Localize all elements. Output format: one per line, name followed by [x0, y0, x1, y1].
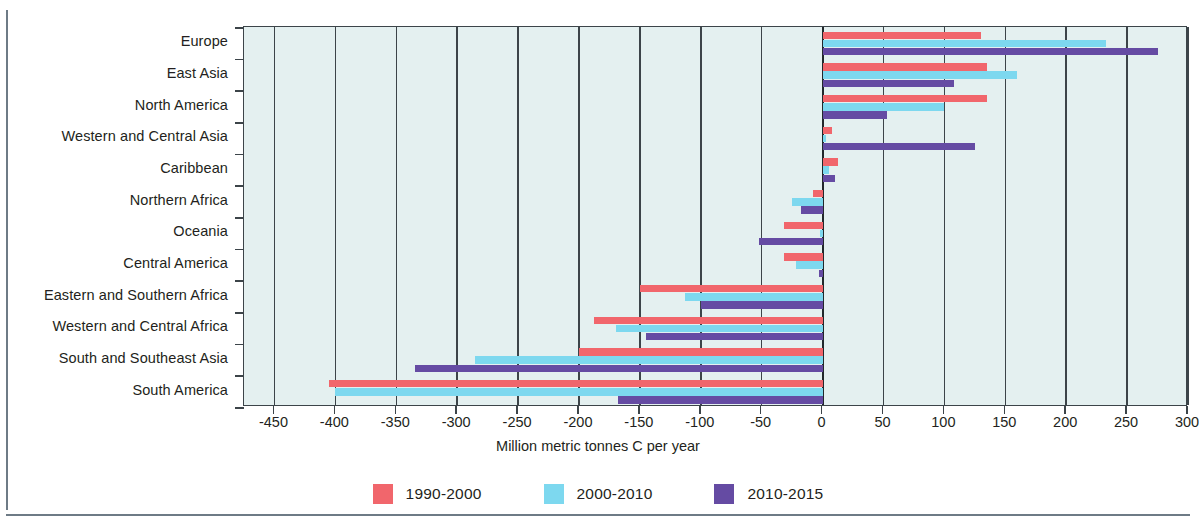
bar-group: [244, 280, 1186, 312]
bar: [823, 95, 987, 103]
bar: [823, 166, 829, 174]
bar: [823, 127, 833, 135]
y-axis-label-north-america: North America: [135, 98, 228, 113]
x-axis-tick-label: -50: [750, 414, 771, 430]
x-axis-tick-label: 100: [931, 414, 955, 430]
x-axis-tick-label: 50: [874, 414, 890, 430]
y-axis-tick: [235, 344, 244, 346]
y-axis-tick: [235, 375, 244, 377]
bar-group: [244, 344, 1186, 376]
x-axis-tick-label: 0: [818, 414, 826, 430]
x-axis-tick: [760, 406, 762, 414]
y-axis-tick: [235, 122, 244, 124]
bar: [823, 158, 839, 166]
y-axis-label-south-america: South America: [132, 383, 228, 398]
bar: [823, 71, 1018, 79]
bar: [685, 293, 823, 301]
x-axis-tick-label: -300: [442, 414, 471, 430]
x-axis-tick: [395, 406, 397, 414]
x-axis-tick-label: -400: [320, 414, 349, 430]
bar: [646, 333, 823, 341]
bar: [823, 80, 955, 88]
y-axis-label-western-and-central-africa: Western and Central Africa: [52, 319, 228, 334]
bar: [823, 48, 1158, 56]
y-axis-label-eastern-and-southern-africa: Eastern and Southern Africa: [44, 288, 228, 303]
bar-group: [244, 375, 1186, 407]
x-axis-tick-label: -250: [503, 414, 532, 430]
bar: [823, 63, 987, 71]
bar: [820, 230, 822, 238]
bar: [640, 285, 823, 293]
bar-group: [244, 59, 1186, 91]
bar: [335, 388, 822, 396]
y-axis-tick: [235, 312, 244, 314]
x-axis-tick: [1004, 406, 1006, 414]
bar-group: [244, 154, 1186, 186]
x-axis-tick-label: 250: [1114, 414, 1138, 430]
x-axis-tick: [943, 406, 945, 414]
y-axis-tick: [235, 280, 244, 282]
x-axis-tick: [638, 406, 640, 414]
bar: [823, 111, 888, 119]
bar: [475, 356, 822, 364]
bar: [579, 348, 823, 356]
x-axis-tick-label: -350: [381, 414, 410, 430]
x-axis-tick: [455, 406, 457, 414]
y-axis-label-caribbean: Caribbean: [160, 161, 228, 176]
bar: [415, 365, 823, 373]
bar: [819, 270, 823, 278]
y-axis-label-east-asia: East Asia: [167, 66, 228, 81]
x-axis-tick: [1186, 406, 1188, 414]
bar: [759, 238, 822, 246]
y-axis-label-oceania: Oceania: [173, 224, 228, 239]
legend: 1990-20002000-20102010-2015: [0, 484, 1196, 504]
legend-swatch-icon: [373, 484, 393, 504]
x-axis-tick-label: 150: [992, 414, 1016, 430]
x-axis-tick: [273, 406, 275, 414]
y-axis-tick: [235, 90, 244, 92]
bar-group: [244, 217, 1186, 249]
legend-swatch-icon: [544, 484, 564, 504]
bar: [823, 175, 835, 183]
bar-group: [244, 312, 1186, 344]
y-axis-tick: [235, 59, 244, 61]
y-axis-label-central-america: Central America: [123, 256, 228, 271]
bar-group: [244, 249, 1186, 281]
legend-label: 1990-2000: [406, 485, 482, 503]
x-axis-tick-label: 300: [1175, 414, 1199, 430]
legend-label: 2000-2010: [577, 485, 653, 503]
bar: [618, 396, 823, 404]
bar: [701, 301, 823, 309]
bar: [784, 222, 823, 230]
gridline: [1187, 27, 1189, 405]
bar: [616, 325, 823, 333]
x-axis-tick-label: -150: [624, 414, 653, 430]
y-axis-tick: [235, 249, 244, 251]
x-axis-tick: [334, 406, 336, 414]
bar: [813, 190, 823, 198]
y-axis-tick: [235, 185, 244, 187]
plot-area: [243, 26, 1187, 406]
bar: [823, 135, 827, 143]
x-axis-tick: [699, 406, 701, 414]
x-axis-tick: [516, 406, 518, 414]
cropped-title-fragment: [0, 0, 1196, 14]
x-axis-tick: [1125, 406, 1127, 414]
y-axis-label-northern-africa: Northern Africa: [130, 193, 228, 208]
legend-item: 1990-2000: [373, 484, 482, 504]
bar: [796, 261, 823, 269]
x-axis-title: Million metric tonnes C per year: [0, 438, 1196, 454]
bar-group: [244, 122, 1186, 154]
x-axis-tick: [821, 406, 823, 414]
y-axis-label-south-and-southeast-asia: South and Southeast Asia: [59, 351, 228, 366]
bar: [329, 380, 822, 388]
x-axis-tick-label: -450: [259, 414, 288, 430]
bar: [784, 253, 823, 261]
x-axis-tick-labels: -450-400-350-300-250-200-150-100-5005010…: [0, 414, 1196, 436]
y-axis-label-western-and-central-asia: Western and Central Asia: [61, 129, 228, 144]
bar: [594, 317, 823, 325]
bar: [823, 103, 945, 111]
page-rule-bottom: [6, 514, 1190, 516]
y-axis-label-europe: Europe: [181, 34, 228, 49]
